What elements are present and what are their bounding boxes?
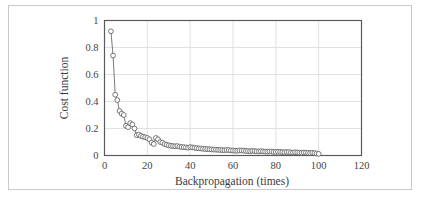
y-axis-tick-labels: 00.20.40.60.81 — [85, 15, 99, 161]
x-tick-label: 40 — [185, 160, 196, 171]
y-tick-label: 0.4 — [85, 96, 99, 107]
y-tick-label: 0.8 — [85, 42, 98, 53]
x-tick-label: 120 — [354, 160, 370, 171]
data-point-marker — [121, 113, 126, 118]
x-tick-label: 0 — [102, 160, 107, 171]
x-tick-label: 20 — [142, 160, 153, 171]
data-point-marker — [113, 92, 118, 97]
x-axis-title: Backpropagation (times) — [175, 175, 289, 188]
y-tick-label: 0.6 — [85, 69, 98, 80]
data-point-marker — [151, 142, 156, 147]
x-tick-label: 100 — [311, 160, 327, 171]
figure-container: 00.20.40.60.81 020406080100120 Backpropa… — [0, 0, 428, 208]
cost-function-chart: 00.20.40.60.81 020406080100120 Backpropa… — [0, 0, 428, 208]
x-axis-tick-labels: 020406080100120 — [102, 160, 370, 171]
x-tick-label: 80 — [271, 160, 282, 171]
y-tick-label: 0.2 — [85, 123, 98, 134]
data-point-marker — [109, 29, 114, 34]
y-tick-label: 1 — [93, 15, 98, 26]
y-axis-title: Cost function — [58, 57, 70, 120]
data-point-marker — [115, 98, 120, 103]
x-tick-label: 60 — [228, 160, 239, 171]
data-point-marker — [316, 151, 321, 156]
y-tick-label: 0 — [93, 150, 98, 161]
data-point-marker — [111, 53, 116, 58]
data-point-marker — [132, 126, 137, 131]
data-series-markers — [109, 29, 322, 156]
